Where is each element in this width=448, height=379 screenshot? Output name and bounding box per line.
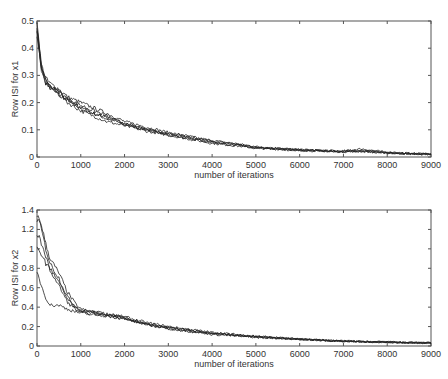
series-line bbox=[37, 219, 431, 343]
x-tick-label: 9000 bbox=[421, 160, 441, 170]
x-tick-label: 3000 bbox=[158, 349, 178, 359]
x-tick-label: 5000 bbox=[246, 349, 266, 359]
x-axis-label: number of iterations bbox=[194, 170, 274, 180]
axes-frame bbox=[37, 210, 431, 346]
x-tick-label: 3000 bbox=[158, 160, 178, 170]
x-tick-label: 7000 bbox=[333, 160, 353, 170]
y-tick-label: 1.4 bbox=[21, 205, 34, 215]
x-tick-label: 0 bbox=[34, 160, 39, 170]
x-tick-label: 4000 bbox=[202, 349, 222, 359]
y-tick-label: 0.2 bbox=[21, 322, 34, 332]
x-axis-label: number of iterations bbox=[194, 359, 274, 369]
y-tick-label: 0.3 bbox=[21, 70, 34, 80]
y-axis-label: Row ISI for x2 bbox=[10, 250, 20, 307]
x-tick-label: 8000 bbox=[377, 160, 397, 170]
series-line bbox=[37, 31, 431, 156]
plot-x1: 010002000300040005000600070008000900000.… bbox=[10, 16, 441, 180]
y-tick-label: 0.8 bbox=[21, 263, 34, 273]
x-tick-label: 8000 bbox=[377, 349, 397, 359]
series-line bbox=[37, 235, 431, 343]
series-line bbox=[37, 247, 431, 344]
figure: 010002000300040005000600070008000900000.… bbox=[0, 0, 448, 379]
series-line bbox=[37, 23, 431, 155]
y-tick-label: 0.5 bbox=[21, 16, 34, 26]
y-tick-label: 0.6 bbox=[21, 283, 34, 293]
y-axis-label: Row ISI for x1 bbox=[10, 61, 20, 118]
y-tick-label: 0 bbox=[29, 152, 34, 162]
x-tick-label: 2000 bbox=[115, 160, 135, 170]
x-tick-label: 0 bbox=[34, 349, 39, 359]
y-tick-label: 0.2 bbox=[21, 98, 34, 108]
x-tick-label: 9000 bbox=[421, 349, 441, 359]
series-line bbox=[37, 216, 431, 344]
y-tick-label: 1 bbox=[29, 244, 34, 254]
series-line bbox=[37, 32, 431, 155]
x-tick-label: 6000 bbox=[290, 349, 310, 359]
y-tick-label: 1.2 bbox=[21, 224, 34, 234]
x-tick-label: 4000 bbox=[202, 160, 222, 170]
plot-x2: 010002000300040005000600070008000900000.… bbox=[10, 205, 441, 369]
x-tick-label: 2000 bbox=[115, 349, 135, 359]
x-tick-label: 5000 bbox=[246, 160, 266, 170]
x-tick-label: 6000 bbox=[290, 160, 310, 170]
series-line bbox=[37, 37, 431, 155]
x-tick-label: 7000 bbox=[333, 349, 353, 359]
x-tick-label: 1000 bbox=[71, 349, 91, 359]
y-tick-label: 0.1 bbox=[21, 125, 34, 135]
axes-frame bbox=[37, 21, 431, 157]
x-tick-label: 1000 bbox=[71, 160, 91, 170]
series-line bbox=[37, 28, 431, 154]
y-tick-label: 0.4 bbox=[21, 43, 34, 53]
y-tick-label: 0 bbox=[29, 341, 34, 351]
series-line bbox=[37, 272, 431, 343]
y-tick-label: 0.4 bbox=[21, 302, 34, 312]
